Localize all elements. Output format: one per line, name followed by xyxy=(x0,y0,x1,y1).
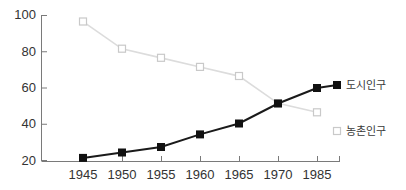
urban-point-1970 xyxy=(274,100,282,108)
line-chart: 100 80 60 40 20 1945 1950 1955 1960 1965… xyxy=(0,0,406,190)
y-tick-label-40: 40 xyxy=(2,117,36,130)
series-rural xyxy=(80,18,341,135)
urban-markers xyxy=(79,84,321,162)
urban-legend-marker xyxy=(333,81,341,89)
y-tick-label-20: 20 xyxy=(2,154,36,167)
series-label-urban: 도시인구 xyxy=(346,80,386,91)
y-tick-label-100: 100 xyxy=(2,8,36,21)
axis-lines xyxy=(42,15,341,162)
rural-legend-marker xyxy=(334,128,341,135)
urban-point-1965 xyxy=(235,120,243,128)
chart-plot-area xyxy=(0,0,406,190)
urban-line xyxy=(83,88,317,158)
y-tick-label-80: 80 xyxy=(2,45,36,58)
rural-point-1945 xyxy=(80,18,87,25)
urban-point-1960 xyxy=(196,130,204,138)
series-urban xyxy=(79,81,341,162)
series-label-rural: 농촌인구 xyxy=(346,126,386,137)
urban-point-1955 xyxy=(157,143,165,151)
rural-point-1955 xyxy=(158,54,165,61)
rural-point-1985 xyxy=(314,109,321,116)
rural-point-1950 xyxy=(119,45,126,52)
urban-point-1985 xyxy=(313,84,321,92)
urban-point-1950 xyxy=(118,149,126,157)
y-axis-ticks xyxy=(42,16,48,161)
urban-point-1945 xyxy=(79,154,87,162)
y-tick-label-60: 60 xyxy=(2,81,36,94)
rural-point-1965 xyxy=(236,73,243,80)
x-axis-ticks xyxy=(84,156,340,162)
x-tick-label-1985: 1985 xyxy=(294,168,340,181)
rural-point-1960 xyxy=(197,63,204,70)
